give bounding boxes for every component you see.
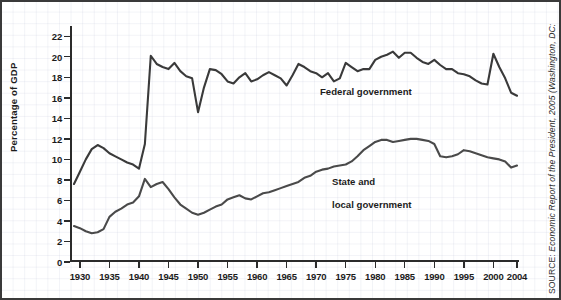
y-tick-label: 4 bbox=[57, 215, 62, 226]
y-tick-label: 0 bbox=[57, 257, 62, 268]
x-tick-label: 1945 bbox=[158, 271, 178, 282]
y-axis-title: Percentage of GDP bbox=[8, 63, 19, 152]
figure-panel: Percentage of GDP 0246810121416182022193… bbox=[0, 0, 561, 300]
x-tick-label: 1990 bbox=[424, 271, 444, 282]
y-tick bbox=[64, 77, 70, 78]
x-tick bbox=[516, 262, 517, 268]
x-tick bbox=[404, 262, 405, 268]
x-tick bbox=[375, 262, 376, 268]
y-tick bbox=[64, 56, 70, 57]
y-tick-label: 6 bbox=[57, 195, 62, 206]
y-tick-label: 8 bbox=[57, 174, 62, 185]
x-tick-label: 1960 bbox=[247, 271, 267, 282]
x-tick-label: 1995 bbox=[454, 271, 474, 282]
x-tick bbox=[138, 262, 139, 268]
y-tick-label: 2 bbox=[57, 236, 62, 247]
x-tick-label: 1985 bbox=[395, 271, 415, 282]
x-tick-label: 1975 bbox=[336, 271, 356, 282]
x-tick bbox=[315, 262, 316, 268]
x-tick-label: 1965 bbox=[276, 271, 296, 282]
y-tick-label: 16 bbox=[52, 92, 62, 103]
x-tick-label: 1930 bbox=[70, 271, 90, 282]
y-tick bbox=[64, 36, 70, 37]
x-tick bbox=[493, 262, 494, 268]
x-tick-label: 1970 bbox=[306, 271, 326, 282]
x-tick bbox=[286, 262, 287, 268]
y-tick bbox=[64, 97, 70, 98]
source-note-text: Economic Report of the President, 2005 (… bbox=[547, 24, 557, 254]
x-tick-label: 2000 bbox=[483, 271, 503, 282]
x-tick bbox=[168, 262, 169, 268]
x-tick bbox=[227, 262, 228, 268]
x-tick-label: 1955 bbox=[217, 271, 237, 282]
y-tick-label: 10 bbox=[52, 154, 62, 165]
x-tick-label: 2004 bbox=[507, 271, 527, 282]
x-tick bbox=[463, 262, 464, 268]
y-tick bbox=[64, 200, 70, 201]
source-note: SOURCE: Economic Report of the President… bbox=[547, 24, 557, 294]
x-tick bbox=[79, 262, 80, 268]
annotation-state-local-government: State and local government bbox=[332, 164, 411, 222]
y-tick bbox=[64, 179, 70, 180]
x-tick-label: 1950 bbox=[188, 271, 208, 282]
y-tick bbox=[64, 118, 70, 119]
y-tick bbox=[64, 159, 70, 160]
annotation-state-line-1: State and bbox=[332, 176, 411, 188]
x-tick-label: 1980 bbox=[365, 271, 385, 282]
line-state-local-government bbox=[74, 139, 517, 233]
y-axis-line bbox=[70, 26, 72, 262]
x-tick bbox=[434, 262, 435, 268]
y-tick-label: 20 bbox=[52, 51, 62, 62]
annotation-federal-government: Federal government bbox=[320, 86, 412, 98]
y-tick bbox=[64, 261, 70, 262]
plot-area: 0246810121416182022193019351940194519501… bbox=[70, 26, 519, 262]
y-tick-label: 22 bbox=[52, 31, 62, 42]
source-note-prefix: SOURCE: bbox=[547, 254, 557, 294]
y-tick-label: 14 bbox=[52, 113, 62, 124]
y-tick bbox=[64, 241, 70, 242]
annotation-state-line-2: local government bbox=[332, 199, 411, 211]
y-tick-label: 18 bbox=[52, 72, 62, 83]
y-tick-label: 12 bbox=[52, 133, 62, 144]
y-tick bbox=[64, 138, 70, 139]
series-lines bbox=[70, 26, 519, 262]
x-tick bbox=[345, 262, 346, 268]
y-tick bbox=[64, 220, 70, 221]
x-tick-label: 1935 bbox=[99, 271, 119, 282]
x-tick bbox=[256, 262, 257, 268]
x-tick-label: 1940 bbox=[129, 271, 149, 282]
x-tick bbox=[197, 262, 198, 268]
line-federal-government bbox=[74, 52, 517, 184]
x-tick bbox=[109, 262, 110, 268]
